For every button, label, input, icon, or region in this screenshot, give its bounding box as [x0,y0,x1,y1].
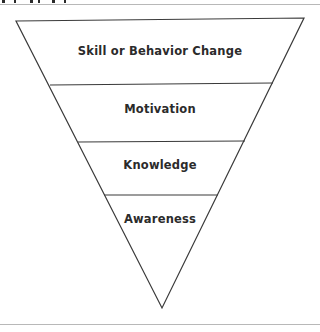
divider-2 [78,141,245,142]
bottom-rule [0,324,320,325]
level-label-awareness: Awareness [0,212,320,226]
level-label-motivation: Motivation [0,102,320,116]
divider-1 [50,83,273,85]
level-label-knowledge: Knowledge [0,158,320,172]
level-label-skill-behavior-change: Skill or Behavior Change [0,44,320,58]
